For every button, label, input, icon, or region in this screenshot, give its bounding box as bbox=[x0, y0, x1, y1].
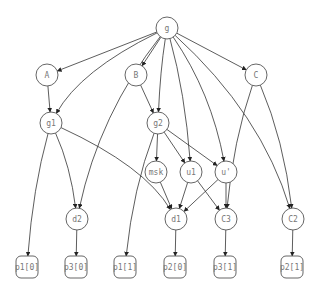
node-A[interactable]: A bbox=[36, 64, 58, 86]
edge-C3-to-p3_1 bbox=[225, 230, 226, 256]
edge-g-to-uprime bbox=[173, 37, 224, 161]
edge-C2-to-p2_1 bbox=[292, 230, 293, 256]
node-label: p3[0] bbox=[64, 263, 88, 272]
node-p1-0[interactable]: p1[0] bbox=[15, 256, 39, 278]
node-label: u1 bbox=[186, 168, 196, 177]
node-d2[interactable]: d2 bbox=[66, 208, 88, 230]
node-label: p2[1] bbox=[280, 263, 304, 272]
node-C3[interactable]: C3 bbox=[215, 208, 237, 230]
node-label: p1[0] bbox=[15, 263, 39, 272]
node-p3-1[interactable]: p3[1] bbox=[213, 256, 237, 278]
nodes-layer: gABCg1g2msku1u'd2d1C3C2p1[0]p3[0]p1[1]p2… bbox=[15, 17, 304, 278]
node-label: d1 bbox=[171, 215, 181, 224]
node-p1-1[interactable]: p1[1] bbox=[113, 256, 137, 278]
edge-g-to-C bbox=[177, 33, 247, 70]
edge-g-to-B bbox=[142, 37, 161, 66]
node-p3-0[interactable]: p3[0] bbox=[64, 256, 88, 278]
edge-g-to-u1 bbox=[170, 39, 190, 161]
edge-C-to-C3 bbox=[227, 85, 252, 208]
node-label: g bbox=[165, 24, 170, 33]
node-label: p2[0] bbox=[163, 263, 187, 272]
edge-d1-to-p2_0 bbox=[175, 230, 176, 256]
node-C2[interactable]: C2 bbox=[282, 208, 304, 230]
node-d1[interactable]: d1 bbox=[165, 208, 187, 230]
edge-g2-to-msk bbox=[156, 134, 157, 161]
node-p2-0[interactable]: p2[0] bbox=[163, 256, 187, 278]
node-label: p3[1] bbox=[213, 263, 237, 272]
edge-g2-to-u1 bbox=[164, 132, 185, 163]
edge-g2-to-p1_1 bbox=[126, 133, 154, 256]
edge-d2-to-p3_0 bbox=[76, 230, 77, 256]
node-label: C3 bbox=[221, 215, 231, 224]
edge-g1-to-p1_0 bbox=[28, 134, 48, 256]
edge-u1-to-d1 bbox=[179, 182, 187, 208]
node-label: g1 bbox=[46, 119, 56, 128]
node-label: g2 bbox=[153, 119, 163, 128]
node-label: u' bbox=[221, 168, 231, 177]
edge-uprime-to-d1 bbox=[184, 180, 218, 212]
node-u1[interactable]: u1 bbox=[180, 161, 202, 183]
node-C[interactable]: C bbox=[245, 64, 267, 86]
node-label: msk bbox=[149, 168, 164, 177]
node-p2-1[interactable]: p2[1] bbox=[280, 256, 304, 278]
edge-g-to-g2 bbox=[158, 39, 165, 112]
edge-msk-to-d1 bbox=[160, 182, 171, 209]
edge-C-to-C2 bbox=[260, 85, 291, 208]
node-label: B bbox=[134, 71, 139, 80]
node-label: C bbox=[254, 71, 259, 80]
edge-B-to-g2 bbox=[141, 85, 154, 113]
node-label: A bbox=[45, 71, 50, 80]
node-g[interactable]: g bbox=[156, 17, 178, 39]
node-uprime[interactable]: u' bbox=[215, 161, 237, 183]
node-g2[interactable]: g2 bbox=[147, 112, 169, 134]
node-msk[interactable]: msk bbox=[145, 161, 167, 183]
edge-g-to-A bbox=[57, 32, 157, 71]
node-B[interactable]: B bbox=[125, 64, 147, 86]
edge-A-to-g1 bbox=[48, 86, 50, 112]
node-g1[interactable]: g1 bbox=[40, 112, 62, 134]
node-label: p1[1] bbox=[113, 263, 137, 272]
edge-g1-to-d2 bbox=[56, 133, 76, 208]
node-label: d2 bbox=[72, 215, 82, 224]
dependency-graph: gABCg1g2msku1u'd2d1C3C2p1[0]p3[0]p1[1]p2… bbox=[0, 0, 320, 294]
node-label: C2 bbox=[288, 215, 298, 224]
